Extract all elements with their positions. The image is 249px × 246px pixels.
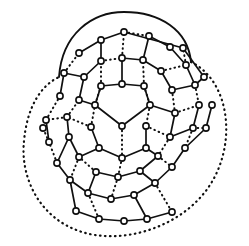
graph-vertex: [121, 218, 127, 224]
graph-vertex: [119, 81, 125, 87]
graph-vertex: [119, 123, 125, 129]
graph-vertex: [203, 125, 209, 131]
graph-vertex: [190, 125, 196, 131]
graph-vertex: [182, 145, 188, 151]
graph-vertex: [88, 124, 94, 130]
graph-vertex: [131, 192, 137, 198]
graph-vertex: [43, 117, 49, 123]
graph-vertex: [192, 82, 198, 88]
graph-vertex: [158, 68, 164, 74]
graph-vertex: [64, 114, 70, 120]
graph-vertex: [92, 102, 98, 108]
graph-vertex: [155, 153, 161, 159]
figure-root: [0, 0, 249, 246]
graph-vertex: [76, 154, 82, 160]
graph-vertex: [61, 70, 67, 76]
graph-vertex: [137, 168, 143, 174]
graph-vertex: [201, 74, 207, 80]
graph-vertex: [169, 87, 175, 93]
graph-vertex: [67, 177, 73, 183]
graph-vertex: [140, 57, 146, 63]
graph-vertex: [172, 110, 178, 116]
graph-vertex: [119, 155, 125, 161]
graph-vertex: [98, 58, 104, 64]
graph-vertex: [108, 196, 114, 202]
graph-vertex: [40, 125, 46, 131]
graph-vertex: [57, 93, 63, 99]
graph-vertex: [76, 97, 82, 103]
graph-vertex: [147, 102, 153, 108]
graph-vertex: [141, 83, 147, 89]
graph-vertex: [209, 102, 215, 108]
graph-diagram-canvas: [0, 0, 249, 246]
graph-vertex: [180, 45, 186, 51]
graph-vertex: [46, 139, 52, 145]
graph-vertex: [66, 134, 72, 140]
graph-vertex: [167, 134, 173, 140]
graph-vertex: [54, 160, 60, 166]
graph-vertex: [115, 174, 121, 180]
graph-vertex: [119, 55, 125, 61]
graph-vertex: [121, 29, 127, 35]
graph-vertex: [96, 145, 102, 151]
figure-background: [0, 0, 249, 246]
graph-vertex: [169, 164, 175, 170]
graph-vertex: [98, 37, 104, 43]
graph-vertex: [98, 83, 104, 89]
graph-vertex: [93, 169, 99, 175]
graph-vertex: [146, 33, 152, 39]
graph-vertex: [183, 62, 189, 68]
graph-vertex: [73, 208, 79, 214]
graph-vertex: [85, 190, 91, 196]
graph-vertex: [96, 216, 102, 222]
graph-vertex: [143, 123, 149, 129]
graph-vertex: [167, 44, 173, 50]
graph-vertex: [196, 102, 202, 108]
graph-vertex: [143, 145, 149, 151]
graph-vertex: [169, 209, 175, 215]
graph-vertex: [144, 216, 150, 222]
graph-vertex: [76, 50, 82, 56]
graph-vertex: [152, 180, 158, 186]
graph-vertex: [81, 74, 87, 80]
